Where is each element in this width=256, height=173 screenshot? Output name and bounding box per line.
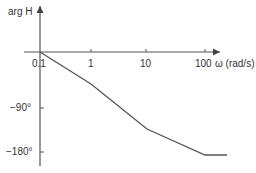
x-tick-label-1: 1	[88, 58, 94, 69]
x-axis-label: ω (rad/s)	[215, 58, 254, 69]
y-tick-label-180: −180°	[6, 146, 33, 157]
y-tick-label-90: −90°	[10, 102, 31, 113]
y-axis-label: arg H	[8, 6, 32, 17]
x-tick-label-100: 100	[195, 58, 212, 69]
x-tick-label-10: 10	[140, 58, 152, 69]
x-tick-label-0.1: 0.1	[32, 58, 46, 69]
bode-phase-plot: arg H 0.1 1 10 100 ω (rad/s) −90° −180°	[0, 0, 256, 173]
